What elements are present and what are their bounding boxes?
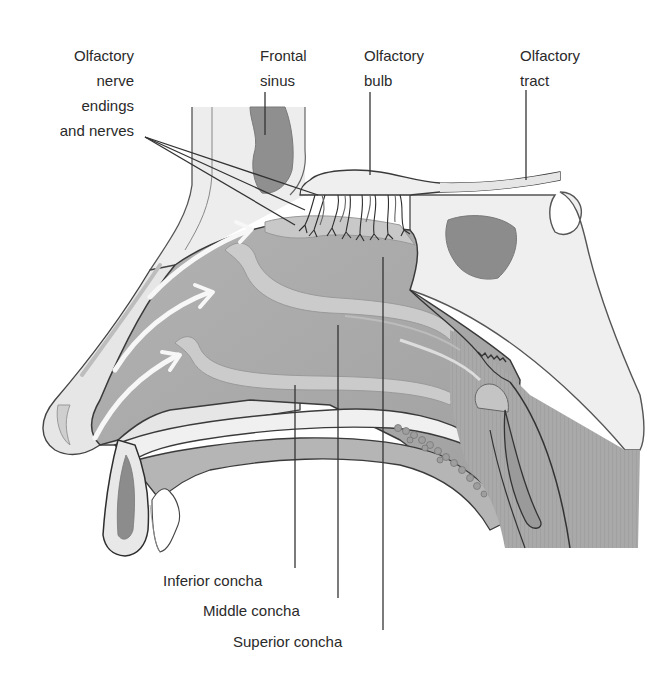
label-olfactory-nerve-endings: Olfactory nerve endings and nerves xyxy=(35,43,134,143)
label-inferior-concha: Inferior concha xyxy=(163,568,262,593)
label-olfactory-tract: Olfactory tract xyxy=(520,43,580,93)
frontal-sinus xyxy=(250,107,293,193)
label-olfactory-bulb: Olfactory bulb xyxy=(364,43,424,93)
label-middle-concha: Middle concha xyxy=(203,598,300,623)
label-superior-concha: Superior concha xyxy=(233,629,342,654)
label-frontal-sinus: Frontal sinus xyxy=(260,43,307,93)
